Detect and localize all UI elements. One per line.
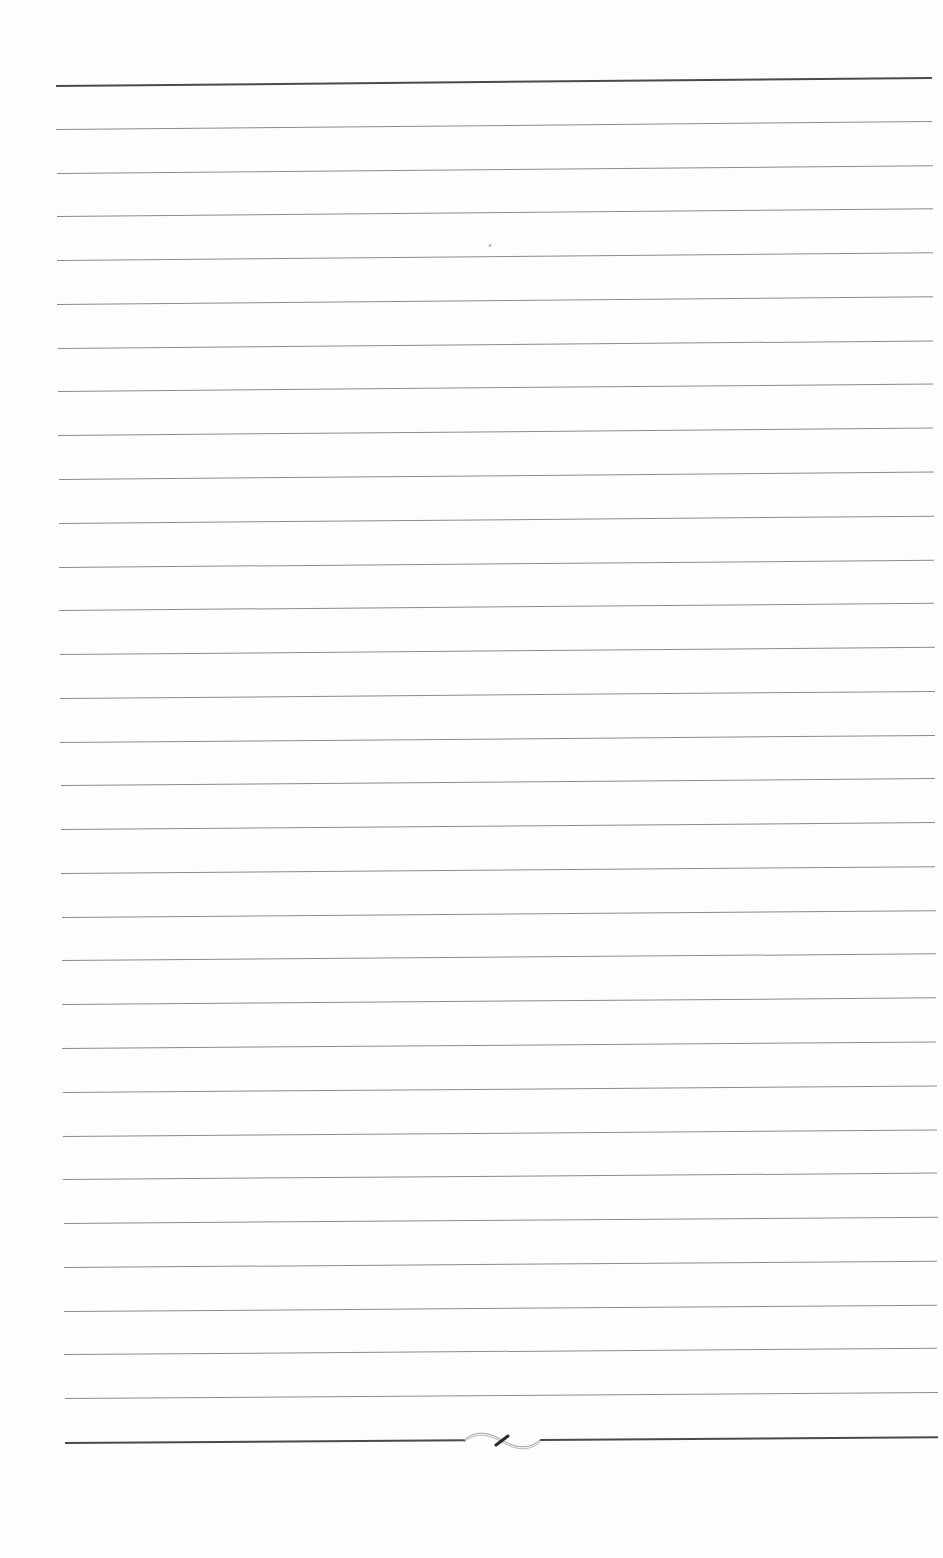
bottom-rule-left	[65, 1439, 465, 1444]
ruled-line	[59, 603, 934, 611]
ruled-line	[64, 1304, 937, 1311]
ruled-line	[62, 910, 936, 918]
ruled-line	[63, 1129, 937, 1136]
ruled-line	[64, 1261, 937, 1268]
ruled-line	[58, 384, 933, 393]
ruled-page	[0, 0, 943, 1558]
ruled-line	[61, 866, 935, 874]
ruled-line	[56, 121, 932, 130]
ruled-line	[61, 778, 935, 786]
top-rule	[56, 77, 932, 87]
ruled-line	[61, 822, 935, 830]
ruled-line	[58, 428, 933, 436]
paper-speck	[488, 244, 491, 248]
ruled-line	[59, 559, 934, 567]
ruled-line	[62, 1041, 936, 1049]
ruled-line	[57, 252, 933, 261]
ruled-line	[59, 472, 934, 480]
ruled-line	[59, 515, 934, 523]
bottom-rule-right	[540, 1436, 938, 1441]
ruled-line	[60, 691, 935, 699]
ruled-line	[57, 165, 933, 174]
ruled-line	[57, 209, 933, 218]
ruled-line	[60, 647, 935, 655]
ruled-line	[64, 1348, 937, 1355]
ruled-line	[64, 1217, 937, 1224]
ruled-line	[63, 1085, 937, 1093]
ruled-line	[62, 998, 936, 1006]
ruled-line	[63, 1173, 937, 1180]
flourish-ornament-icon	[462, 1428, 542, 1452]
ruled-line	[57, 296, 933, 305]
ruled-line	[65, 1392, 938, 1399]
ruled-line	[62, 954, 936, 962]
ruled-line	[60, 735, 935, 743]
ruled-line	[58, 340, 933, 349]
